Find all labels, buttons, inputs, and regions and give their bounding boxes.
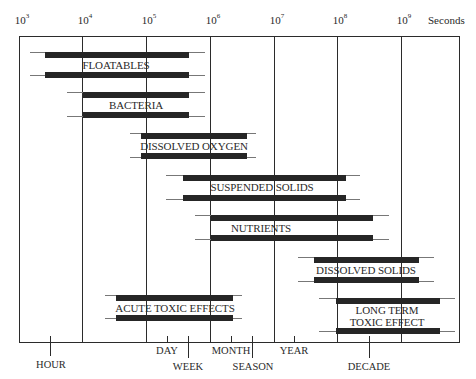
label-season: SEASON: [233, 361, 274, 372]
label-year: YEAR: [280, 345, 309, 356]
gridline-1e9: [401, 36, 402, 343]
tick-month: [231, 336, 232, 343]
tick-year: [294, 336, 295, 343]
gridline-1e4: [82, 36, 83, 343]
tick-day: [167, 336, 168, 343]
tick-label-1e5: 105: [142, 13, 157, 26]
label-bacteria: BACTERIA: [109, 99, 163, 111]
tick-week: [188, 336, 189, 358]
tick-season: [252, 336, 253, 358]
label-long-term: LONG TERM: [356, 304, 419, 316]
label-dissolved-solids: DISSOLVED SOLIDS: [316, 264, 416, 276]
label-month: MONTH: [212, 345, 251, 356]
tick-hour: [50, 336, 51, 356]
gridline-1e8: [337, 36, 338, 343]
label-week: WEEK: [173, 361, 203, 372]
tick-decade: [369, 336, 370, 358]
tick-label-1e9: 109: [397, 13, 412, 26]
tick-label-1e7: 107: [270, 13, 285, 26]
label-toxic-effect: TOXIC EFFECT: [350, 316, 425, 328]
tick-label-1e3: 103: [15, 13, 30, 26]
tick-label-1e4: 104: [78, 13, 93, 26]
label-nutrients: NUTRIENTS: [231, 222, 291, 234]
label-decade: DECADE: [348, 361, 391, 372]
label-hour: HOUR: [36, 359, 66, 370]
label-floatables: FLOATABLES: [82, 59, 149, 71]
axis-unit-label: Seconds: [428, 14, 465, 26]
tick-label-1e8: 108: [333, 13, 348, 26]
label-day: DAY: [156, 345, 178, 356]
tick-label-1e6: 106: [206, 13, 221, 26]
label-acute-toxic-effects: ACUTE TOXIC EFFECTS: [115, 302, 234, 314]
label-suspended-solids: SUSPENDED SOLIDS: [210, 181, 313, 193]
label-dissolved-oxygen: DISSOLVED OXYGEN: [140, 140, 248, 152]
